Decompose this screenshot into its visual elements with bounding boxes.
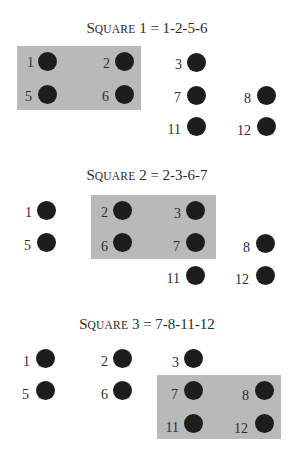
title-smallcaps: QUARE <box>95 170 136 182</box>
label-12: 12 <box>224 422 248 436</box>
dot-5 <box>38 85 57 104</box>
dot-7 <box>184 381 203 400</box>
dot-2 <box>113 349 132 368</box>
label-2: 2 <box>86 57 110 71</box>
label-3: 3 <box>157 207 181 221</box>
label-1: 1 <box>10 56 34 70</box>
dot-8 <box>255 381 274 400</box>
label-5: 5 <box>7 239 31 253</box>
label-5: 5 <box>8 90 32 104</box>
dot-8 <box>257 86 276 105</box>
title-smallcaps: QUARE <box>88 319 129 331</box>
dot-2 <box>113 201 132 220</box>
label-7: 7 <box>154 388 178 402</box>
label-8: 8 <box>227 92 251 106</box>
dot-1 <box>38 52 57 71</box>
label-12: 12 <box>225 273 249 287</box>
label-5: 5 <box>5 388 29 402</box>
dot-2 <box>115 52 134 71</box>
square-3-title: SQUARE 3 = 7-8-11-12 <box>0 315 294 334</box>
dot-3 <box>187 53 206 72</box>
label-12: 12 <box>227 124 251 138</box>
title-initial: S <box>86 20 94 36</box>
label-11: 11 <box>156 272 180 286</box>
dot-5 <box>37 233 56 252</box>
label-7: 7 <box>156 240 180 254</box>
label-1: 1 <box>8 206 32 220</box>
label-2: 2 <box>84 355 108 369</box>
dot-7 <box>186 233 205 252</box>
label-3: 3 <box>155 356 179 370</box>
dot-12 <box>257 117 276 136</box>
dot-11 <box>186 266 205 285</box>
label-8: 8 <box>225 389 249 403</box>
square-2-panel: SQUARE 2 = 2-3-6-7 1 2 3 5 6 7 8 11 12 <box>0 150 294 300</box>
title-formula: 3 = 7-8-11-12 <box>128 316 215 332</box>
dot-6 <box>115 85 134 104</box>
label-6: 6 <box>85 90 109 104</box>
dot-12 <box>255 414 274 433</box>
square-3-panel: SQUARE 3 = 7-8-11-12 1 2 3 5 6 7 8 11 12 <box>0 300 294 450</box>
label-2: 2 <box>84 206 108 220</box>
square-1-panel: SQUARE 1 = 1-2-5-6 1 2 3 5 6 7 8 11 12 <box>0 0 294 150</box>
label-11: 11 <box>155 421 179 435</box>
square-2-title: SQUARE 2 = 2-3-6-7 <box>0 166 294 185</box>
label-1: 1 <box>6 355 30 369</box>
dot-3 <box>184 349 203 368</box>
dot-1 <box>37 201 56 220</box>
title-initial: S <box>79 316 87 332</box>
dot-12 <box>256 266 275 285</box>
dot-7 <box>187 86 206 105</box>
dot-3 <box>186 201 205 220</box>
dot-11 <box>187 117 206 136</box>
title-smallcaps: QUARE <box>95 23 136 35</box>
title-formula: 2 = 2-3-6-7 <box>135 167 207 183</box>
title-initial: S <box>86 167 94 183</box>
square-1-title: SQUARE 1 = 1-2-5-6 <box>0 19 294 38</box>
dot-5 <box>36 381 55 400</box>
dot-8 <box>256 234 275 253</box>
label-6: 6 <box>84 240 108 254</box>
dot-11 <box>184 414 203 433</box>
label-7: 7 <box>157 91 181 105</box>
label-3: 3 <box>158 58 182 72</box>
label-6: 6 <box>84 388 108 402</box>
dot-6 <box>113 233 132 252</box>
dot-6 <box>113 381 132 400</box>
label-8: 8 <box>226 241 250 255</box>
dot-1 <box>36 349 55 368</box>
title-formula: 1 = 1-2-5-6 <box>135 20 207 36</box>
label-11: 11 <box>157 123 181 137</box>
